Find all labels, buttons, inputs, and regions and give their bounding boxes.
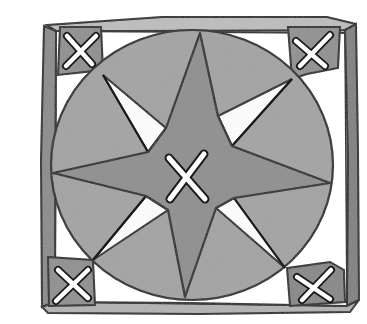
compass-rose-illustration xyxy=(0,0,367,324)
